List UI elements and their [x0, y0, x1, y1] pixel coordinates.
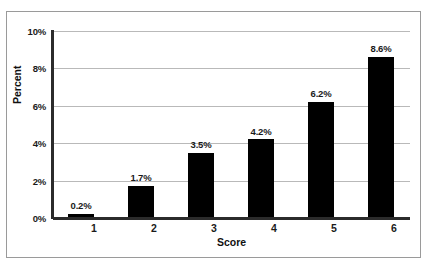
bar-4 — [248, 139, 274, 218]
x-tick-label-5: 5 — [314, 222, 354, 234]
x-tick-label-6: 6 — [374, 222, 414, 234]
x-axis-line — [53, 217, 410, 220]
y-axis-title: Percent — [11, 65, 23, 104]
gridline-6 — [53, 106, 410, 107]
bar-label-2: 1.7% — [116, 172, 166, 183]
gridline-8 — [53, 68, 410, 69]
bar-5 — [308, 102, 334, 218]
x-tick-label-2: 2 — [134, 222, 174, 234]
x-tick-label-1: 1 — [74, 222, 114, 234]
plot-area: 0.2% 1.7% 3.5% 4.2% 6.2% 8.6% — [53, 31, 410, 218]
bar-label-5: 6.2% — [296, 88, 346, 99]
x-tick-label-4: 4 — [254, 222, 294, 234]
bar-label-4: 4.2% — [236, 126, 286, 137]
y-tick-label-0: 0% — [6, 213, 46, 224]
bar-label-1: 0.2% — [56, 200, 106, 211]
bar-label-3: 3.5% — [176, 139, 226, 150]
bar-label-6: 8.6% — [356, 43, 406, 54]
bar-2 — [128, 186, 154, 218]
y-tick-label-2: 2% — [6, 175, 46, 186]
gridline-2 — [53, 181, 410, 182]
bar-chart: 0.2% 1.7% 3.5% 4.2% 6.2% 8.6% 10% 8% 6% … — [0, 0, 427, 270]
y-tick-label-4: 4% — [6, 138, 46, 149]
x-tick-label-3: 3 — [194, 222, 234, 234]
bar-6 — [368, 57, 394, 218]
gridline-4 — [53, 143, 410, 144]
y-tick-label-10: 10% — [6, 26, 46, 37]
gridline-10 — [53, 31, 410, 32]
x-axis-title: Score — [53, 236, 410, 248]
bar-3 — [188, 153, 214, 218]
y-axis-line — [51, 30, 54, 219]
